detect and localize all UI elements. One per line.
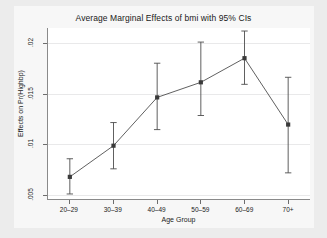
y-tick-label-p005: .005 bbox=[27, 181, 34, 207]
chart-title: Average Marginal Effects of bmi with 95%… bbox=[0, 13, 327, 23]
error-bar-5059 bbox=[198, 42, 204, 115]
x-tick-label-2029: 20–29 bbox=[60, 206, 78, 213]
y-tick-mark bbox=[43, 94, 47, 95]
x-tick-mark bbox=[288, 200, 289, 204]
y-tick-label-p02: .02 bbox=[27, 30, 34, 56]
y-axis-title: Effects on Pr(Highbp) bbox=[17, 39, 24, 169]
x-tick-label-5059: 50–59 bbox=[191, 206, 209, 213]
y-tick-mark bbox=[43, 195, 47, 196]
data-point-6069 bbox=[242, 56, 246, 60]
y-tick-label-p015: .015 bbox=[27, 80, 34, 106]
x-tick-label-6069: 60–69 bbox=[235, 206, 253, 213]
x-tick-mark bbox=[244, 200, 245, 204]
connecting-line bbox=[70, 58, 288, 177]
data-point-4049 bbox=[155, 95, 159, 99]
y-tick-mark bbox=[43, 43, 47, 44]
plot-area bbox=[47, 28, 310, 200]
x-tick-mark bbox=[157, 200, 158, 204]
x-tick-mark bbox=[113, 200, 114, 204]
x-tick-mark bbox=[200, 200, 201, 204]
data-point-70 bbox=[286, 122, 290, 126]
y-tick-label-p01: .01 bbox=[27, 131, 34, 157]
x-axis-title: Age Group bbox=[47, 216, 310, 223]
data-point-2029 bbox=[68, 175, 72, 179]
figure: Average Marginal Effects of bmi with 95%… bbox=[0, 0, 327, 238]
x-tick-mark bbox=[69, 200, 70, 204]
y-tick-mark bbox=[43, 144, 47, 145]
data-point-5059 bbox=[199, 80, 203, 84]
x-tick-label-4049: 40–49 bbox=[148, 206, 166, 213]
data-point-3039 bbox=[111, 144, 115, 148]
x-tick-label-3039: 30–39 bbox=[104, 206, 122, 213]
x-tick-label-70: 70+ bbox=[283, 206, 294, 213]
series-bmi-marginal-effects bbox=[48, 28, 310, 199]
